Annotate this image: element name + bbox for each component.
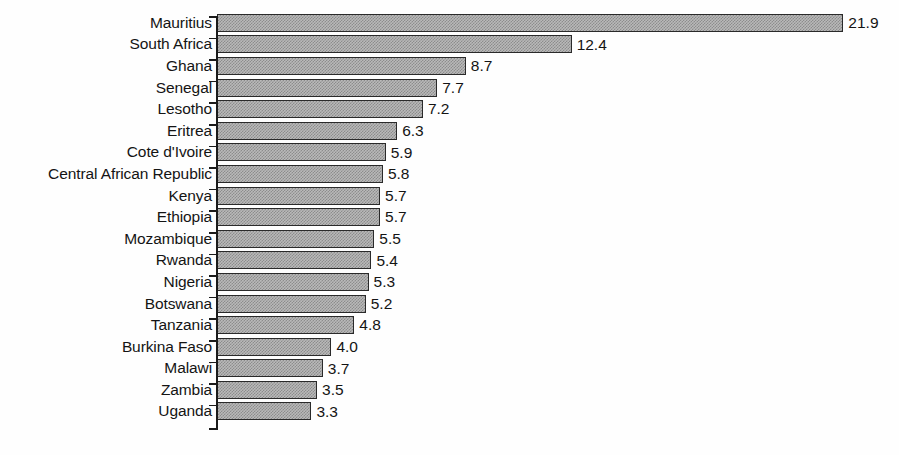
chart-row: Tanzania4.8 [0,314,899,336]
category-label: Rwanda [156,253,217,269]
chart-row: Botswana5.2 [0,293,899,315]
chart-row: Lesotho7.2 [0,98,899,120]
bar [217,251,371,269]
axis-tick [209,189,217,191]
bar-group: 5.7 [217,187,407,205]
axis-cap-bottom [209,428,218,430]
chart-row: Zambia3.5 [0,379,899,401]
bar-group: 5.8 [217,165,409,183]
plot-area: Mauritius21.9South Africa12.4Ghana8.7Sen… [0,12,899,436]
bar [217,79,437,97]
bar-group: 21.9 [217,14,879,32]
bar-group: 3.3 [217,402,338,420]
bar-group: 4.8 [217,316,381,334]
axis-tick [209,167,217,169]
value-label: 3.7 [323,361,350,377]
bar [217,165,383,183]
value-label: 7.2 [423,101,450,117]
chart-row: Malawi3.7 [0,358,899,380]
value-label: 12.4 [572,37,607,53]
value-label: 5.7 [380,209,407,225]
bar-group: 5.7 [217,208,407,226]
bar [217,359,323,377]
axis-tick [209,210,217,212]
chart-row: Uganda3.3 [0,401,899,423]
bar-group: 6.3 [217,122,424,140]
bar [217,381,317,399]
chart-row: Mauritius21.9 [0,12,899,34]
category-label: Tanzania [151,317,217,333]
chart-row: Burkina Faso4.0 [0,336,899,358]
bar-group: 7.7 [217,79,464,97]
bar [217,35,572,53]
axis-tick [209,297,217,299]
bar-group: 12.4 [217,35,607,53]
category-axis-line [216,16,218,430]
chart-row: South Africa12.4 [0,34,899,56]
chart-row: Kenya5.7 [0,185,899,207]
category-label: Ethiopia [157,209,217,225]
value-label: 4.8 [354,317,381,333]
bar [217,57,466,75]
value-label: 8.7 [466,58,493,74]
bar-group: 5.5 [217,230,401,248]
category-label: Burkina Faso [122,339,217,355]
bar [217,143,386,161]
value-label: 3.3 [311,404,338,420]
category-label: Central African Republic [48,166,217,182]
category-label: Mauritius [150,15,217,31]
bar [217,187,380,205]
chart-row: Eritrea6.3 [0,120,899,142]
axis-tick [209,232,217,234]
axis-tick [209,362,217,364]
bar-chart: Mauritius21.9South Africa12.4Ghana8.7Sen… [0,0,899,455]
value-label: 4.0 [331,339,358,355]
bar-group: 8.7 [217,57,492,75]
bar-group: 4.0 [217,338,358,356]
axis-tick [209,81,217,83]
bar [217,273,369,291]
axis-tick [209,275,217,277]
value-label: 5.7 [380,188,407,204]
bar [217,122,397,140]
chart-row: Mozambique5.5 [0,228,899,250]
axis-tick [209,254,217,256]
axis-cap-top [209,16,218,18]
bar [217,316,354,334]
value-label: 3.5 [317,382,344,398]
axis-tick [209,38,217,40]
value-label: 5.9 [386,145,413,161]
value-label: 5.5 [374,231,401,247]
value-label: 5.2 [366,296,393,312]
category-label: Mozambique [124,231,217,247]
value-label: 6.3 [397,123,424,139]
axis-tick [209,102,217,104]
bar-group: 3.5 [217,381,344,399]
bar [217,402,311,420]
axis-tick [209,383,217,385]
category-label: South Africa [130,37,217,53]
bar [217,338,331,356]
value-label: 5.3 [369,274,396,290]
chart-row: Ghana8.7 [0,55,899,77]
category-label: Botswana [145,296,217,312]
bar [217,295,366,313]
chart-row: Cote d'Ivoire5.9 [0,142,899,164]
bar [217,230,374,248]
chart-row: Nigeria5.3 [0,271,899,293]
chart-row: Senegal7.7 [0,77,899,99]
value-label: 5.8 [383,166,410,182]
axis-tick [209,318,217,320]
bar-group: 7.2 [217,100,449,118]
axis-tick [209,124,217,126]
bar-group: 5.2 [217,295,392,313]
bar [217,14,843,32]
value-label: 21.9 [843,15,878,31]
chart-row: Rwanda5.4 [0,250,899,272]
chart-row: Central African Republic5.8 [0,163,899,185]
axis-tick [209,146,217,148]
value-label: 5.4 [371,253,398,269]
bar-group: 5.9 [217,143,412,161]
bar [217,208,380,226]
bar [217,100,423,118]
